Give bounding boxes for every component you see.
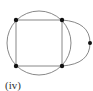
vertex-bottom-right [60, 64, 64, 68]
vertex-bottom-left [14, 64, 18, 68]
vertex-right [88, 41, 92, 45]
vertex-top-left [14, 18, 18, 22]
graph-diagram [0, 0, 93, 91]
inscribed-square [16, 20, 62, 66]
figure-label: (iv) [5, 80, 21, 91]
vertex-top-right [60, 18, 64, 22]
